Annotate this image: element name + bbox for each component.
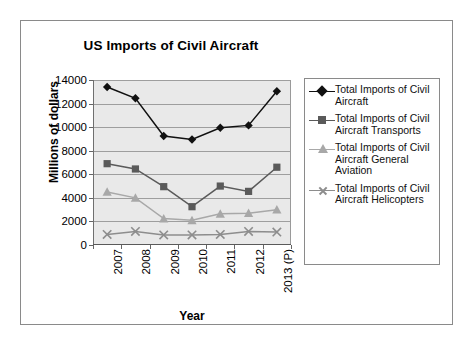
series-line bbox=[107, 87, 277, 139]
data-point-square bbox=[217, 182, 224, 189]
y-axis-tick-label: 6000 bbox=[41, 168, 87, 180]
data-point-diamond bbox=[188, 135, 196, 143]
y-axis-tick-label: 4000 bbox=[41, 192, 87, 204]
data-point-diamond bbox=[103, 83, 111, 91]
legend-label: Total Imports of Civil Aircraft Helicopt… bbox=[335, 183, 430, 206]
series-square bbox=[104, 160, 281, 210]
y-axis-tick-label: 2000 bbox=[41, 215, 87, 227]
legend-item[interactable]: Total Imports of Civil Aircraft Helicopt… bbox=[309, 183, 435, 206]
plot-right-border bbox=[290, 80, 291, 245]
legend-marker-diamond-icon bbox=[309, 85, 335, 98]
series-x bbox=[103, 227, 281, 239]
y-axis-tick-label: 0 bbox=[41, 239, 87, 251]
x-axis-tick-label: 2009 bbox=[169, 249, 181, 275]
x-axis-tick-labels: 2007200820092010201120122013 (P) bbox=[93, 249, 291, 307]
y-axis-tick-labels: 02000400060008000100001200014000 bbox=[39, 80, 87, 245]
y-axis-tick-label: 14000 bbox=[41, 74, 87, 86]
legend-label: Total Imports of Civil Aircraft General … bbox=[335, 142, 430, 177]
y-axis-line bbox=[93, 80, 94, 245]
data-point-square bbox=[132, 165, 139, 172]
plot-area bbox=[93, 80, 291, 245]
series-diamond bbox=[103, 83, 281, 144]
legend-marker-x-icon bbox=[309, 184, 335, 197]
series-layer bbox=[93, 80, 291, 245]
data-point-square bbox=[245, 188, 252, 195]
legend-item[interactable]: Total Imports of Civil Aircraft Transpor… bbox=[309, 113, 435, 136]
x-axis-tick-label: 2008 bbox=[140, 249, 152, 275]
y-axis-tick-label: 10000 bbox=[41, 121, 87, 133]
chart-title: US Imports of Civil Aircraft bbox=[21, 38, 321, 53]
x-axis-tick-label: 2012 bbox=[254, 249, 266, 275]
legend-label: Total Imports of Civil Aircraft Transpor… bbox=[335, 113, 430, 136]
data-point-square bbox=[273, 164, 280, 171]
legend-item[interactable]: Total Imports of Civil Aircraft bbox=[309, 84, 435, 107]
legend-marker-triangle-icon bbox=[309, 143, 335, 156]
x-axis-tick-label: 2010 bbox=[197, 249, 209, 275]
data-point-square bbox=[160, 183, 167, 190]
x-axis-tick-label: 2007 bbox=[112, 249, 124, 275]
data-point-diamond bbox=[216, 124, 224, 132]
chart-frame: US Imports of Civil Aircraft Millions of… bbox=[20, 20, 453, 325]
x-axis-tick-label: 2011 bbox=[225, 249, 237, 274]
legend-marker-square-icon bbox=[309, 114, 335, 127]
x-axis-tick-label: 2013 (P) bbox=[282, 249, 294, 293]
y-axis-tick-label: 8000 bbox=[41, 145, 87, 157]
data-point-square bbox=[104, 160, 111, 167]
legend-label: Total Imports of Civil Aircraft bbox=[335, 84, 430, 107]
data-point-triangle bbox=[103, 187, 112, 196]
legend-item[interactable]: Total Imports of Civil Aircraft General … bbox=[309, 142, 435, 177]
data-point-square bbox=[188, 203, 195, 210]
x-axis-title: Year bbox=[93, 309, 291, 323]
chart-legend: Total Imports of Civil AircraftTotal Imp… bbox=[304, 78, 440, 265]
y-axis-tick-label: 12000 bbox=[41, 98, 87, 110]
